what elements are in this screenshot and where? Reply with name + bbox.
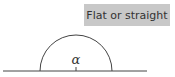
angle-symbol: α — [72, 52, 81, 67]
straight-angle-diagram: α — [0, 0, 175, 77]
